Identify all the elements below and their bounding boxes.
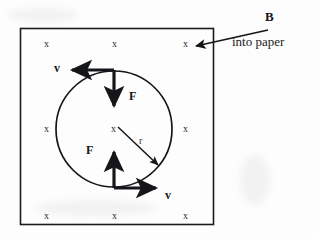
field-symbol-top-left: x xyxy=(44,39,49,49)
field-symbol-center: x xyxy=(111,124,116,134)
force-bottom-label: F xyxy=(86,144,93,156)
field-symbol-bottom-left: x xyxy=(44,211,49,221)
radius-label: r xyxy=(139,136,142,146)
field-symbol-top-right: x xyxy=(183,39,188,49)
radius-arrow xyxy=(118,127,158,165)
velocity-bottom-label: v xyxy=(165,189,171,201)
field-symbol-middle-right: x xyxy=(183,124,188,134)
force-top-label: F xyxy=(129,90,136,102)
physics-diagram: x x x x x x x x x v v F F r B into paper xyxy=(0,0,319,239)
magnetic-field-label: B xyxy=(265,10,274,23)
field-direction-caption: into paper xyxy=(232,35,284,48)
field-symbol-bottom-center: x xyxy=(112,211,117,221)
velocity-top-label: v xyxy=(54,62,60,74)
field-symbol-top-center: x xyxy=(112,39,117,49)
field-symbol-bottom-right: x xyxy=(183,211,188,221)
field-symbol-middle-left: x xyxy=(44,124,49,134)
